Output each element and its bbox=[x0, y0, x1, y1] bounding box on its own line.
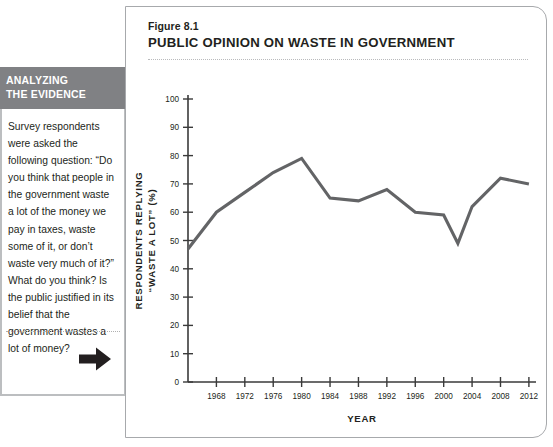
arrow-right-icon[interactable] bbox=[78, 344, 112, 374]
sidebar-header: ANALYZING THE EVIDENCE bbox=[0, 67, 126, 109]
y-tick-label: 90 bbox=[170, 123, 180, 132]
y-tick-label: 100 bbox=[165, 95, 179, 104]
figure-card: Figure 8.1 PUBLIC OPINION ON WASTE IN GO… bbox=[125, 6, 547, 438]
y-tick-label: 70 bbox=[170, 180, 180, 189]
x-axis: 1968197219761980198419881992199620002004… bbox=[188, 377, 538, 401]
x-tick-label: 2012 bbox=[520, 392, 539, 401]
y-axis-title-line2: “WASTE A LOT” (%) bbox=[146, 189, 157, 293]
figure-number: Figure 8.1 bbox=[148, 20, 528, 33]
sidebar-header-line1: ANALYZING bbox=[6, 74, 126, 88]
sidebar-header-line2: THE EVIDENCE bbox=[6, 88, 126, 102]
x-tick-label: 1980 bbox=[293, 392, 312, 401]
y-tick-label: 40 bbox=[170, 265, 180, 274]
x-tick-label: 1972 bbox=[236, 392, 255, 401]
y-tick-label: 30 bbox=[170, 293, 180, 302]
x-tick-label: 1992 bbox=[378, 392, 397, 401]
line-chart: 0102030405060708090100 19681972197619801… bbox=[126, 85, 548, 435]
sidebar-body: Survey respondents were asked the follow… bbox=[0, 109, 126, 396]
data-series-line bbox=[188, 158, 529, 249]
title-divider bbox=[148, 59, 528, 60]
x-tick-label: 1968 bbox=[207, 392, 226, 401]
y-tick-label: 20 bbox=[170, 321, 180, 330]
y-tick-label: 10 bbox=[170, 350, 180, 359]
x-tick-label: 2000 bbox=[435, 392, 454, 401]
sidebar-question-text: Survey respondents were asked the follow… bbox=[8, 118, 116, 357]
x-tick-label: 1976 bbox=[264, 392, 283, 401]
y-tick-label: 60 bbox=[170, 208, 180, 217]
sidebar-divider bbox=[6, 331, 120, 332]
y-tick-label: 80 bbox=[170, 152, 180, 161]
x-axis-title: YEAR bbox=[347, 413, 376, 424]
y-tick-label: 50 bbox=[170, 237, 180, 246]
analyzing-the-evidence-panel: ANALYZING THE EVIDENCE Survey respondent… bbox=[0, 67, 126, 387]
x-tick-label: 1996 bbox=[406, 392, 425, 401]
x-tick-label: 1988 bbox=[349, 392, 368, 401]
chart-plot-area: 0102030405060708090100 19681972197619801… bbox=[126, 85, 548, 435]
x-tick-label: 1984 bbox=[321, 392, 340, 401]
x-tick-label: 2004 bbox=[463, 392, 482, 401]
x-tick-label: 2008 bbox=[491, 392, 510, 401]
figure-title: PUBLIC OPINION ON WASTE IN GOVERNMENT bbox=[148, 34, 528, 51]
y-axis-title-line1: RESPONDENTS REPLYING bbox=[133, 172, 144, 310]
y-tick-label: 0 bbox=[174, 378, 179, 387]
y-axis: 0102030405060708090100 bbox=[165, 95, 193, 387]
